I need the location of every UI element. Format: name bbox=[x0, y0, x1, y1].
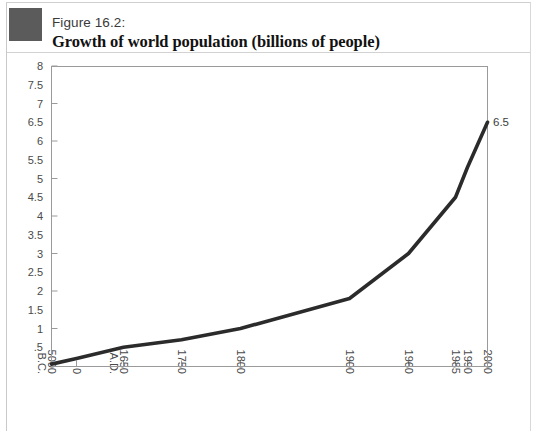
x-axis-tick-label-line: 1900 bbox=[344, 350, 356, 374]
x-axis-tick-label: 1900 bbox=[344, 350, 356, 374]
y-axis-tick-label: 5 bbox=[37, 173, 43, 185]
x-axis-tick-label: 1985 bbox=[450, 350, 462, 374]
population-line-series bbox=[52, 122, 488, 364]
x-axis-tick-label-line: A.D. bbox=[108, 353, 120, 374]
x-axis-tick-label: 1960 bbox=[403, 350, 415, 374]
x-axis-tick-label-line: 1800 bbox=[235, 350, 247, 374]
y-axis-tick-label: 3 bbox=[37, 248, 43, 260]
y-axis-tick-label: 2 bbox=[37, 285, 43, 297]
y-axis: .511.522.533.544.555.566.577.58 bbox=[28, 60, 58, 353]
population-line bbox=[52, 122, 488, 364]
y-axis-tick-label: 8 bbox=[37, 60, 43, 72]
x-axis-tick-label-line: B.C. bbox=[36, 353, 48, 374]
y-axis-tick-label: 7 bbox=[37, 98, 43, 110]
y-axis-tick-label: 7.5 bbox=[28, 79, 43, 91]
y-axis-tick-label: 4.5 bbox=[28, 191, 43, 203]
x-axis-tick-label: 0 bbox=[71, 368, 83, 374]
line-chart: .511.522.533.544.555.566.577.58 5000B.C.… bbox=[0, 0, 537, 433]
y-axis-tick-label: 4 bbox=[37, 210, 43, 222]
x-axis-tick-label: 1750 bbox=[176, 350, 188, 374]
y-axis-tick-label: 1 bbox=[37, 323, 43, 335]
y-axis-tick-label: 3.5 bbox=[28, 229, 43, 241]
y-axis-tick-label: 2.5 bbox=[28, 266, 43, 278]
y-axis-tick-label: 5.5 bbox=[28, 154, 43, 166]
data-point-label: 6.5 bbox=[493, 116, 509, 128]
y-axis-tick-label: 6.5 bbox=[28, 116, 43, 128]
y-axis-tick-label: .5 bbox=[34, 341, 43, 353]
x-axis-tick-label-line: 1750 bbox=[176, 350, 188, 374]
figure-container: Figure 16.2: Growth of world population … bbox=[0, 0, 537, 433]
x-axis-tick-label: 1990 bbox=[462, 350, 474, 374]
data-point-labels: 6.5 bbox=[493, 116, 509, 128]
y-axis-tick-label: 1.5 bbox=[28, 304, 43, 316]
x-axis-tick-label-line: 1990 bbox=[462, 350, 474, 374]
x-axis-tick-label: 1650A.D. bbox=[108, 350, 130, 374]
chart-svg: .511.522.533.544.555.566.577.58 5000B.C.… bbox=[0, 0, 537, 433]
x-axis-tick-label-line: 1985 bbox=[450, 350, 462, 374]
x-axis-tick-label-line: 0 bbox=[71, 368, 83, 374]
x-axis-tick-label-line: 1960 bbox=[403, 350, 415, 374]
y-axis-tick-label: 6 bbox=[37, 135, 43, 147]
x-axis-tick-label: 1800 bbox=[235, 350, 247, 374]
